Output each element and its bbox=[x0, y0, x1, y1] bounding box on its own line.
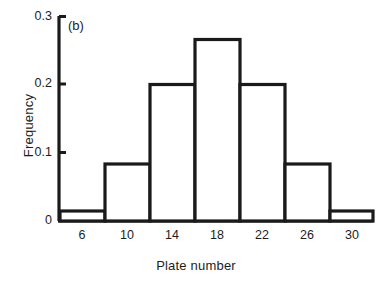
histogram-bar bbox=[195, 40, 240, 222]
x-axis-label: Plate number bbox=[0, 258, 392, 273]
y-tick-label: 0 bbox=[12, 213, 52, 227]
x-tick-label: 14 bbox=[152, 228, 192, 242]
x-tick-label: 18 bbox=[197, 228, 237, 242]
histogram-figure: (b) 0.3 0.2 0.1 0 6 10 14 18 22 26 30 Fr… bbox=[0, 0, 392, 283]
histogram-bar bbox=[285, 164, 330, 221]
x-tick-label: 6 bbox=[62, 228, 102, 242]
histogram-bar bbox=[60, 211, 105, 221]
panel-label: (b) bbox=[68, 18, 84, 33]
x-tick-label: 26 bbox=[287, 228, 327, 242]
y-tick-label: 0.3 bbox=[12, 9, 52, 23]
histogram-bar bbox=[105, 164, 150, 221]
x-tick-label: 22 bbox=[242, 228, 282, 242]
histogram-bar bbox=[150, 85, 195, 222]
x-tick-label: 30 bbox=[332, 228, 372, 242]
x-tick-label: 10 bbox=[107, 228, 147, 242]
histogram-bar bbox=[240, 85, 285, 222]
y-axis-label: Frequency bbox=[21, 76, 36, 176]
histogram-bar bbox=[330, 211, 373, 221]
